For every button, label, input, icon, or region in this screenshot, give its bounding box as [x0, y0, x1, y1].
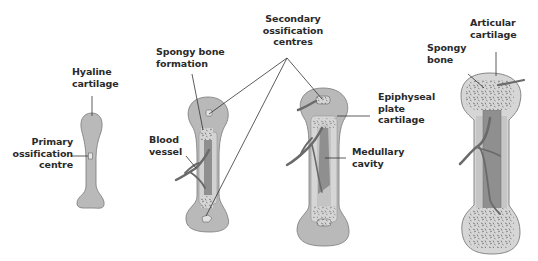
blood-vessel-label: Blood vessel: [149, 134, 182, 157]
primary-ossification-centre-label: Primary ossification centre: [13, 136, 73, 171]
hyaline-cartilage-label: Hyaline cartilage: [72, 66, 119, 89]
ossification-diagram: Hyaline cartilage Primary ossification c…: [0, 0, 538, 261]
spongy-bone-label: Spongy bone: [427, 42, 466, 65]
bone-stage-1: [77, 113, 104, 208]
bone-stage-3: [287, 88, 349, 246]
leader-lines: [72, 52, 496, 216]
bone-stage-2: [176, 97, 229, 232]
epiphyseal-plate-cartilage-label: Epiphyseal plate cartilage: [378, 91, 435, 126]
spongy-bone-formation-label: Spongy bone formation: [156, 46, 225, 69]
articular-cartilage-label: Articular cartilage: [470, 17, 517, 40]
bone-stage-4: [460, 73, 524, 254]
secondary-ossification-centres-label: Secondary ossification centres: [254, 13, 332, 48]
primary-ossification-centre-shape: [89, 153, 93, 159]
medullary-cavity-label: Medullary cavity: [352, 146, 404, 169]
